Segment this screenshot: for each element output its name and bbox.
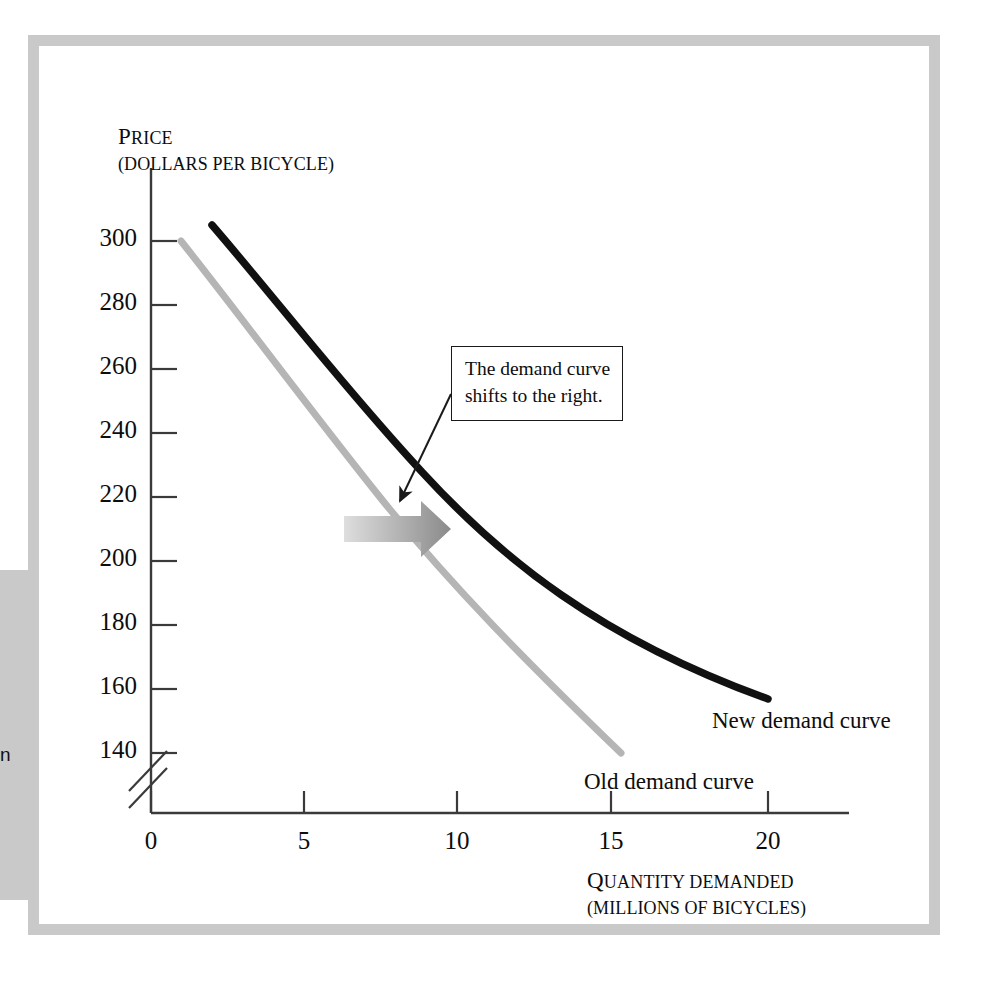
shift-arrow <box>344 501 451 557</box>
y-tick-label-300: 300 <box>49 224 137 252</box>
x-axis-title-rest: UANTITY DEMANDED <box>604 872 794 892</box>
figure-inner: PRICE (DOLLARS PER BICYCLE) 300 280 260 … <box>39 46 929 924</box>
y-axis-title-rest: RICE <box>131 128 173 148</box>
demand-curve-chart: PRICE (DOLLARS PER BICYCLE) 300 280 260 … <box>39 46 929 924</box>
y-tick-label-240: 240 <box>49 416 137 444</box>
callout-line-1: The demand curve <box>465 356 610 383</box>
y-tick-label-260: 260 <box>49 352 137 380</box>
y-tick-label-140: 140 <box>49 736 137 764</box>
figure-frame: PRICE (DOLLARS PER BICYCLE) 300 280 260 … <box>28 35 940 935</box>
figure-page: n <box>0 0 986 1002</box>
new-demand-curve <box>212 225 768 699</box>
x-tick-label-15: 15 <box>581 827 641 855</box>
x-tick-label-10: 10 <box>427 827 487 855</box>
y-axis-subtitle: (DOLLARS PER BICYCLE) <box>118 154 334 175</box>
x-axis-title-first: Q <box>587 868 604 893</box>
x-tick-label-20: 20 <box>738 827 798 855</box>
callout-line-2: shifts to the right. <box>465 383 610 410</box>
x-tick-label-5: 5 <box>274 827 334 855</box>
y-axis-title-first: P <box>118 124 131 149</box>
y-tick-label-220: 220 <box>49 480 137 508</box>
y-tick-label-160: 160 <box>49 672 137 700</box>
margin-note-fragment: n <box>0 742 22 768</box>
x-tick-label-0: 0 <box>121 827 181 855</box>
x-axis-subtitle: (MILLIONS OF BICYCLES) <box>587 898 806 919</box>
y-tick-marks <box>151 241 177 753</box>
y-axis-title: PRICE <box>118 124 173 150</box>
y-tick-label-200: 200 <box>49 544 137 572</box>
y-tick-label-180: 180 <box>49 608 137 636</box>
callout-box: The demand curve shifts to the right. <box>451 346 623 421</box>
old-demand-curve-label: Old demand curve <box>584 769 754 795</box>
x-axis-title: QUANTITY DEMANDED <box>587 868 794 894</box>
new-demand-curve-label: New demand curve <box>712 708 891 734</box>
chart-svg <box>39 46 929 924</box>
callout-pointer-line <box>400 394 451 501</box>
y-tick-label-280: 280 <box>49 288 137 316</box>
